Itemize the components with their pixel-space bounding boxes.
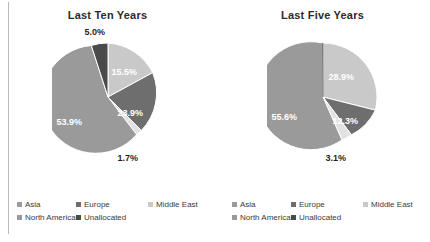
page-title-last-ten-years: Last Ten Years [0,9,215,21]
legend-swatch-icon-europe [291,202,296,207]
legend-item-middle-east: Middle East [363,200,430,209]
legend-item-asia: Asia [215,200,291,209]
pie-label-middle-east: 28.9% [329,73,355,82]
legend-label-unallocated: Unallocated [84,213,126,222]
chart-panel-last-ten-years: Last Ten Years 15.5% 23.9% 53.9% 5.0% 1.… [0,0,215,242]
pie-svg-last-five-years [267,41,379,153]
legend-label-north-america: North America [240,213,291,222]
legend-label-asia: Asia [240,200,256,209]
legend-swatch-icon-middle-east [363,202,368,207]
legend-item-middle-east: Middle East [148,200,215,209]
legend-label-asia: Asia [25,200,41,209]
legend-label-unallocated: Unallocated [299,213,341,222]
legend-item-unallocated: Unallocated [76,213,148,222]
legend-swatch-icon-asia [17,202,22,207]
legend-label-europe: Europe [84,200,110,209]
legend-label-north-america: North America [25,213,76,222]
legend-swatch-icon-north-america [232,215,237,220]
legend-label-middle-east: Middle East [371,200,413,209]
legend-label-europe: Europe [299,200,325,209]
legend-item-north-america: North America [0,213,76,222]
pie-label-europe: 12.3% [333,117,359,126]
legend-swatch-icon-europe [76,202,81,207]
pie-svg-last-ten-years [52,41,164,153]
legend-swatch-icon-north-america [17,215,22,220]
legend-row: Asia Europe Middle East [215,198,430,211]
chart-panel-last-five-years: Last Five Years 28.9% 12.3% 55.6% 3.1% [215,0,430,242]
legend-last-ten-years: Asia Europe Middle East North America Un… [0,198,215,224]
pie-chart-last-ten-years: 15.5% 23.9% 53.9% 5.0% 1.7% [52,41,164,153]
pie-label-unallocated: 5.0% [85,28,106,37]
page-title-last-five-years: Last Five Years [215,9,430,21]
legend-item-north-america: North America [215,213,291,222]
legend-row: Asia Europe Middle East [0,198,215,211]
pie-chart-last-five-years: 28.9% 12.3% 55.6% 3.1% [267,41,379,153]
legend-item-asia: Asia [0,200,76,209]
legend-row: North America Unallocated [215,211,430,224]
legend-label-middle-east: Middle East [156,200,198,209]
legend-item-europe: Europe [291,200,363,209]
pie-label-europe: 23.9% [118,109,144,118]
legend-row: North America Unallocated [0,211,215,224]
legend-last-five-years: Asia Europe Middle East North America Un… [215,198,430,224]
pie-label-asia: 53.9% [57,118,83,127]
legend-item-unallocated: Unallocated [291,213,363,222]
legend-swatch-icon-unallocated [76,215,81,220]
pie-label-middle-east: 15.5% [112,68,138,77]
legend-swatch-icon-unallocated [291,215,296,220]
pie-label-asia: 55.6% [272,113,298,122]
legend-swatch-icon-middle-east [148,202,153,207]
pie-label-north-america: 3.1% [326,154,347,163]
legend-swatch-icon-asia [232,202,237,207]
pie-label-north-america: 1.7% [118,154,139,163]
legend-item-europe: Europe [76,200,148,209]
